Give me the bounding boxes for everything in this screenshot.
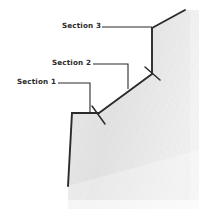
label-section-3: Section 3 [62, 22, 101, 29]
section-diagram-svg [0, 0, 199, 209]
leader-line-section-2 [93, 64, 128, 89]
label-section-1: Section 1 [17, 78, 56, 85]
diagram-canvas: Section 3 Section 2 Section 1 [0, 0, 199, 209]
leader-line-section-1 [58, 83, 90, 112]
label-section-2: Section 2 [52, 59, 91, 66]
wall-shading [40, 10, 199, 209]
